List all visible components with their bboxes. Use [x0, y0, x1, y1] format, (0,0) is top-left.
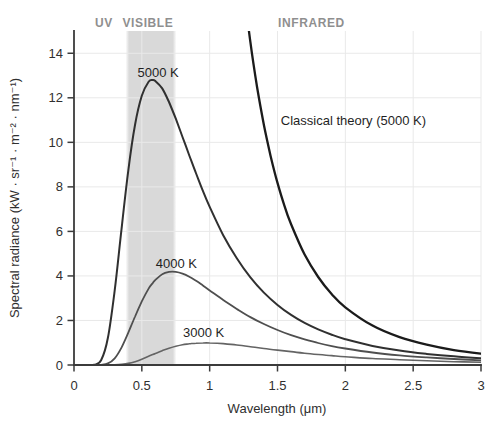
- visible-band-region: [126, 31, 177, 365]
- curve-label-5000k: 5000 K: [138, 65, 180, 80]
- curve-label-4000k: 4000 K: [156, 256, 198, 271]
- annotations: UV VISIBLE INFRARED Classical theory (50…: [7, 16, 426, 416]
- region-label-uv: UV: [95, 16, 113, 30]
- y-tick-label: 12: [49, 90, 63, 105]
- y-tick-label: 6: [56, 224, 63, 239]
- y-tick-label: 10: [49, 135, 63, 150]
- x-tick-label: 1.5: [268, 378, 286, 393]
- curve-label-classical-theory: Classical theory (5000 K): [281, 113, 426, 128]
- x-tick-label: 3: [477, 378, 484, 393]
- y-tick-label: 8: [56, 179, 63, 194]
- region-label-infrared: INFRARED: [278, 16, 345, 30]
- y-tick-label: 4: [56, 268, 63, 283]
- blackbody-radiation-figure: 00.511.522.5302468101214 UV VISIBLE INFR…: [0, 0, 503, 432]
- blackbody-chart: 00.511.522.5302468101214 UV VISIBLE INFR…: [0, 0, 503, 432]
- x-axis-title: Wavelength (μm): [228, 401, 327, 416]
- y-tick-label: 14: [49, 46, 63, 61]
- x-tick-label: 1: [206, 378, 213, 393]
- y-axis-title: Spectral radiance (kW · sr⁻¹ · m⁻² · nm⁻…: [7, 78, 22, 318]
- x-tick-label: 2.5: [404, 378, 422, 393]
- region-label-visible: VISIBLE: [122, 16, 173, 30]
- x-tick-label: 2: [342, 378, 349, 393]
- y-tick-label: 2: [56, 313, 63, 328]
- x-tick-label: 0: [70, 378, 77, 393]
- y-tick-label: 0: [56, 358, 63, 373]
- curve-label-3000k: 3000 K: [183, 325, 225, 340]
- x-tick-label: 0.5: [133, 378, 151, 393]
